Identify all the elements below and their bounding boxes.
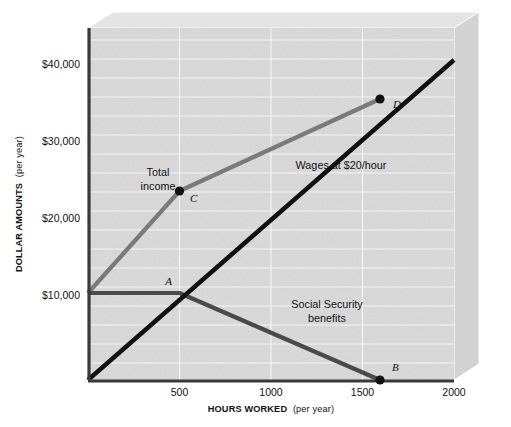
y-tick-10000: $10,000 [42, 289, 80, 301]
y-axis-title-sub: (per year) [14, 136, 24, 177]
marker-D [375, 94, 384, 103]
marker-label-A: A [164, 275, 172, 287]
x-tick-1500: 1500 [351, 386, 375, 398]
marker-C [175, 186, 184, 195]
annotation-total-income-line1: Total [147, 166, 170, 178]
marker-label-B: B [392, 361, 399, 373]
y-axis-title: DOLLAR AMOUNTS (per year) [14, 136, 24, 272]
y-tick-40000: $40,000 [42, 58, 80, 70]
y-tick-20000: $20,000 [42, 212, 80, 224]
y-tick-labels: $40,000 $30,000 $20,000 $10,000 [42, 58, 80, 301]
x-axis-title-sub: (per year) [293, 404, 334, 414]
x-axis-title-main: HOURS WORKED [208, 404, 288, 414]
chart-figure: A B C D Total income Wages at $20/hour S… [0, 0, 511, 427]
box-top-face [88, 12, 479, 28]
x-tick-labels: 500 1000 1500 2000 [171, 386, 466, 398]
box-right-face [454, 12, 479, 380]
x-tick-2000: 2000 [442, 386, 466, 398]
annotation-social-security-line2: benefits [308, 312, 346, 324]
x-tick-1000: 1000 [259, 386, 283, 398]
y-tick-30000: $30,000 [42, 135, 80, 147]
y-axis-title-main: DOLLAR AMOUNTS [14, 183, 24, 272]
annotation-total-income-line2: income [141, 180, 176, 192]
x-axis-title: HOURS WORKED (per year) [208, 404, 334, 414]
marker-B [375, 375, 384, 384]
annotation-wages: Wages at $20/hour [296, 159, 387, 171]
marker-label-D: D [392, 98, 401, 110]
x-tick-500: 500 [171, 386, 189, 398]
economics-line-chart: A B C D Total income Wages at $20/hour S… [0, 0, 511, 427]
marker-label-C: C [190, 192, 198, 204]
annotation-social-security-line1: Social Security [291, 298, 363, 310]
